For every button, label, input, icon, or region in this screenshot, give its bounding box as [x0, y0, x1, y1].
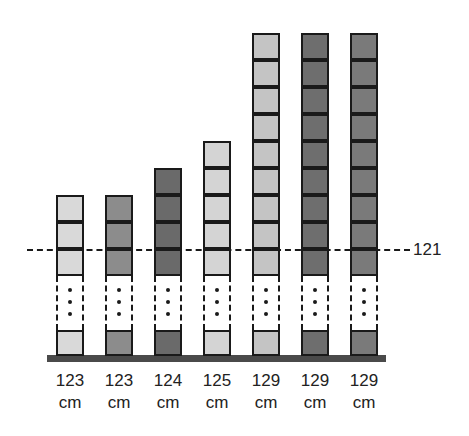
stack-box [252, 87, 280, 114]
stack-box [154, 249, 182, 276]
axis-break [203, 276, 231, 330]
stack-box [203, 249, 231, 276]
base-box [56, 330, 84, 356]
break-dot [264, 312, 268, 316]
stack-box [350, 168, 378, 195]
height-value: 123 [94, 370, 144, 392]
break-dot [313, 312, 317, 316]
break-dot [362, 288, 366, 292]
break-dot [264, 288, 268, 292]
break-dot [215, 288, 219, 292]
height-unit: cm [290, 392, 340, 414]
column-label: 124cm [143, 370, 193, 414]
stack-box [56, 249, 84, 276]
stack-box [301, 114, 329, 141]
break-dot [362, 300, 366, 304]
axis-break [252, 276, 280, 330]
reference-label: 121 [413, 240, 441, 260]
column-label: 129cm [339, 370, 389, 414]
stack-box [301, 141, 329, 168]
stack-box [252, 195, 280, 222]
stack-box [301, 33, 329, 60]
stack-box [252, 114, 280, 141]
height-value: 124 [143, 370, 193, 392]
stack-box [301, 87, 329, 114]
stack-box [252, 141, 280, 168]
height-unit: cm [241, 392, 291, 414]
height-unit: cm [45, 392, 95, 414]
stack-box [203, 141, 231, 168]
break-dot [264, 300, 268, 304]
height-value: 123 [45, 370, 95, 392]
stack-box [252, 60, 280, 87]
base-box [203, 330, 231, 356]
stack-box [56, 195, 84, 222]
axis-break [154, 276, 182, 330]
stack-box [350, 33, 378, 60]
break-dot [166, 312, 170, 316]
break-dot [117, 312, 121, 316]
stack-box [56, 222, 84, 249]
height-unit: cm [94, 392, 144, 414]
base-box [105, 330, 133, 356]
stack-box [350, 249, 378, 276]
base-box [154, 330, 182, 356]
stack-box [252, 222, 280, 249]
stack-box [350, 87, 378, 114]
column-label: 129cm [290, 370, 340, 414]
height-value: 129 [290, 370, 340, 392]
break-dot [215, 300, 219, 304]
base-box [252, 330, 280, 356]
break-dot [68, 288, 72, 292]
break-dot [166, 300, 170, 304]
stack-box [301, 195, 329, 222]
height-value: 125 [192, 370, 242, 392]
axis-break [56, 276, 84, 330]
break-dot [68, 312, 72, 316]
break-dot [362, 312, 366, 316]
column-label: 125cm [192, 370, 242, 414]
break-dot [117, 288, 121, 292]
axis-break [301, 276, 329, 330]
stack-box [203, 195, 231, 222]
stack-box [252, 168, 280, 195]
break-dot [215, 312, 219, 316]
height-unit: cm [192, 392, 242, 414]
stack-box [105, 222, 133, 249]
base-box [350, 330, 378, 356]
stack-box [350, 114, 378, 141]
stack-box [154, 195, 182, 222]
axis-break [350, 276, 378, 330]
stack-box [154, 222, 182, 249]
break-dot [313, 288, 317, 292]
stack-box [301, 60, 329, 87]
stack-box [350, 141, 378, 168]
column-label: 129cm [241, 370, 291, 414]
break-dot [68, 300, 72, 304]
height-unit: cm [143, 392, 193, 414]
break-dot [313, 300, 317, 304]
break-dot [166, 288, 170, 292]
stack-box [301, 249, 329, 276]
stack-box [252, 249, 280, 276]
stack-box [154, 168, 182, 195]
stack-box [301, 222, 329, 249]
height-unit: cm [339, 392, 389, 414]
stack-box [203, 222, 231, 249]
height-value: 129 [241, 370, 291, 392]
stack-box [301, 168, 329, 195]
stack-box [252, 33, 280, 60]
axis-break [105, 276, 133, 330]
column-label: 123cm [94, 370, 144, 414]
break-dot [117, 300, 121, 304]
height-value: 129 [339, 370, 389, 392]
base-box [301, 330, 329, 356]
column-label: 123cm [45, 370, 95, 414]
stack-box [105, 249, 133, 276]
stack-box [350, 195, 378, 222]
stack-box [350, 222, 378, 249]
stack-box [350, 60, 378, 87]
stack-box [203, 168, 231, 195]
stack-box [105, 195, 133, 222]
baseline-bar [47, 355, 386, 362]
